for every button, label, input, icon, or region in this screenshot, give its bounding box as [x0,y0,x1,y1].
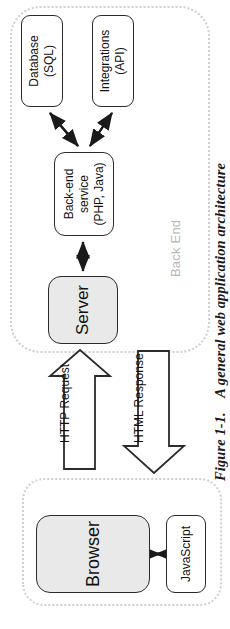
http-request-label: HTTP Request [58,364,72,443]
node-javascript[interactable]: JavaScript [166,515,206,593]
group-back-end-label: Back End [168,220,183,277]
figure-stage: Back End Front End [0,0,230,629]
node-integrations-label: Integrations (API) [98,16,128,106]
node-integrations[interactable]: Integrations (API) [92,15,134,107]
node-database[interactable]: Database (SQL) [21,15,63,107]
node-browser-label: Browser [82,517,105,591]
node-server[interactable]: Server [48,276,118,344]
node-javascript-label: JavaScript [179,522,194,586]
node-backend-service[interactable]: Back-end service (PHP, Java) [54,152,114,236]
architecture-diagram: Back End Front End [0,29,230,629]
html-response-label: HTML Response [132,353,146,443]
node-server-label: Server [72,281,93,339]
node-database-label: Database (SQL) [27,16,57,106]
node-browser[interactable]: Browser [36,515,150,593]
node-backend-service-label: Back-end service (PHP, Java) [62,153,107,235]
